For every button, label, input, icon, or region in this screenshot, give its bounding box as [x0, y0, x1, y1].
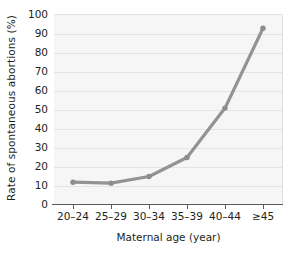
y-tick-label-10: 10 — [35, 180, 48, 191]
y-tick-label-30: 30 — [35, 142, 48, 153]
y-tick-label-90: 90 — [35, 28, 48, 39]
x-tick-label-40–44: 40–44 — [209, 211, 241, 222]
y-tick-label-100: 100 — [28, 9, 48, 20]
chart-figure: Rate of spontaneous abortions (%) 010203… — [0, 0, 301, 260]
x-tick-30–34 — [149, 205, 150, 209]
x-tick-label-30–34: 30–34 — [133, 211, 165, 222]
series-line-group — [54, 15, 282, 205]
plot-area — [54, 14, 283, 205]
x-tick-35–39 — [187, 205, 188, 209]
x-tick-40–44 — [225, 205, 226, 209]
y-tick-label-0: 0 — [41, 199, 48, 210]
data-point-≥45 — [260, 26, 265, 31]
y-tick-label-60: 60 — [35, 85, 48, 96]
data-point-35–39 — [184, 155, 189, 160]
data-point-20–24 — [70, 180, 75, 185]
y-tick-label-20: 20 — [35, 161, 48, 172]
y-tick-label-40: 40 — [35, 123, 48, 134]
data-point-25–29 — [108, 180, 113, 185]
x-tick-25–29 — [111, 205, 112, 209]
x-tick-≥45 — [263, 205, 264, 209]
series-line — [73, 28, 263, 183]
y-tick-label-80: 80 — [35, 47, 48, 58]
y-axis-tick-labels: 0102030405060708090100 — [20, 14, 51, 204]
x-axis-title: Maternal age (year) — [54, 231, 283, 243]
y-tick-label-50: 50 — [35, 104, 48, 115]
x-tick-label-20–24: 20–24 — [57, 211, 89, 222]
y-axis-title: Rate of spontaneous abortions (%) — [0, 0, 22, 215]
y-tick-label-70: 70 — [35, 66, 48, 77]
series-markers — [70, 26, 265, 186]
data-point-30–34 — [146, 174, 151, 179]
data-point-40–44 — [222, 105, 227, 110]
x-tick-label-25–29: 25–29 — [95, 211, 127, 222]
x-tick-20–24 — [73, 205, 74, 209]
x-tick-label-35–39: 35–39 — [171, 211, 203, 222]
x-tick-label-≥45: ≥45 — [252, 211, 274, 222]
x-axis-line — [52, 204, 283, 205]
y-axis-title-label: Rate of spontaneous abortions (%) — [5, 15, 17, 201]
